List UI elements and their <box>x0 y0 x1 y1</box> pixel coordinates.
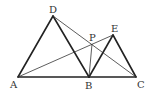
label-p: P <box>89 32 96 43</box>
geometry-figure: A B C D E P <box>0 0 152 94</box>
segment-ae <box>18 35 113 77</box>
label-c: C <box>137 79 145 90</box>
segment-ad <box>18 16 53 77</box>
label-a: A <box>9 79 18 90</box>
segment-db <box>53 16 89 77</box>
label-b: B <box>85 80 92 91</box>
label-d: D <box>49 4 57 15</box>
label-e: E <box>111 23 118 34</box>
segment-ec <box>113 35 136 77</box>
